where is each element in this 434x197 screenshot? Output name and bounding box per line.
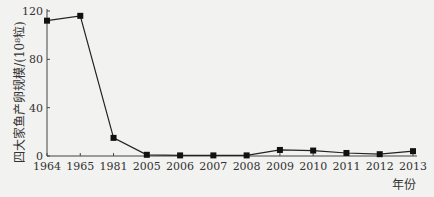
data-point-marker bbox=[111, 135, 117, 141]
data-point-marker bbox=[310, 148, 316, 154]
data-point-marker bbox=[177, 152, 183, 158]
x-tick-label: 2005 bbox=[133, 160, 161, 173]
data-point-marker bbox=[44, 18, 50, 24]
x-tick-label: 2009 bbox=[266, 160, 294, 173]
y-tick-label: 80 bbox=[29, 53, 43, 66]
y-tick-label: 40 bbox=[29, 102, 43, 115]
data-point-marker bbox=[343, 150, 349, 156]
data-point-marker bbox=[277, 147, 283, 153]
data-point-marker bbox=[144, 152, 150, 158]
axes bbox=[47, 9, 417, 156]
data-point-marker bbox=[377, 151, 383, 157]
data-point-marker bbox=[210, 152, 216, 158]
data-point-marker bbox=[410, 148, 416, 154]
x-tick-label: 1965 bbox=[66, 160, 94, 173]
x-tick-label: 1981 bbox=[100, 160, 128, 173]
y-axis-label: 四大家鱼产卵规模/(10⁸粒) bbox=[12, 21, 27, 163]
line-chart: 04080120 1964196519812005200620072008200… bbox=[0, 0, 434, 197]
y-tick-label: 120 bbox=[22, 5, 43, 18]
series-line bbox=[47, 16, 413, 156]
x-tick-label: 1964 bbox=[33, 160, 61, 173]
data-point-marker bbox=[244, 152, 250, 158]
x-tick-label: 2007 bbox=[199, 160, 227, 173]
x-tick-label: 2013 bbox=[399, 160, 427, 173]
x-tick-label: 2011 bbox=[332, 160, 360, 173]
x-tick-label: 2008 bbox=[233, 160, 261, 173]
data-point-marker bbox=[77, 13, 83, 19]
x-axis-label: 年份 bbox=[392, 178, 416, 192]
x-tick-label: 2012 bbox=[366, 160, 394, 173]
data-series bbox=[44, 13, 416, 159]
x-tick-label: 2006 bbox=[166, 160, 194, 173]
x-tick-label: 2010 bbox=[299, 160, 327, 173]
